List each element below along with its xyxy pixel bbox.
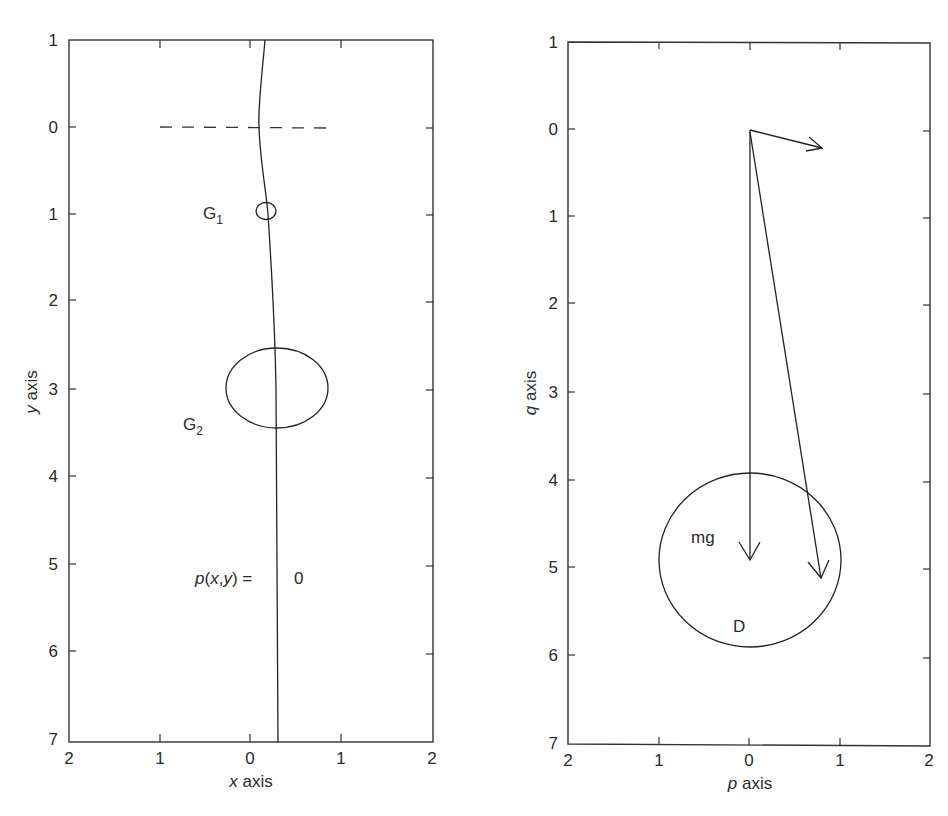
left-y-tick-label: 3 bbox=[49, 380, 58, 399]
label-mg: mg bbox=[691, 528, 715, 547]
right-x-tick-label: 2 bbox=[563, 751, 572, 770]
left-y-tick-label: 5 bbox=[49, 555, 58, 574]
right-panel: 1 0 1 2 3 4 5 6 7 2 1 0 1 2 p axis q axi… bbox=[521, 33, 934, 793]
right-x-axis-label: p axis bbox=[727, 774, 772, 793]
right-y-tick-label: 5 bbox=[549, 558, 558, 577]
right-x-tick-label: 2 bbox=[924, 751, 933, 770]
right-y-axis-label: q axis bbox=[521, 371, 540, 415]
left-x-tick-label: 2 bbox=[427, 749, 436, 768]
right-plot-frame bbox=[568, 42, 930, 746]
left-y-tick-label: 7 bbox=[49, 730, 58, 749]
right-y-tick-label: 0 bbox=[549, 120, 558, 139]
right-y-tick-label: 4 bbox=[549, 471, 558, 490]
right-y-tick-label: 1 bbox=[549, 33, 558, 52]
left-panel: 1 0 1 2 3 4 5 6 7 2 1 0 1 2 x axis y axi… bbox=[22, 31, 437, 791]
left-plot-frame bbox=[69, 40, 433, 742]
right-y-tick-label: 6 bbox=[549, 646, 558, 665]
right-y-tick-labels: 1 0 1 2 3 4 5 6 7 bbox=[549, 33, 558, 753]
equation-label-right: 0 bbox=[294, 569, 303, 588]
left-y-tick-label: 4 bbox=[49, 467, 58, 486]
left-y-tick-label: 1 bbox=[49, 205, 58, 224]
left-x-tick-label: 0 bbox=[245, 749, 254, 768]
curve-p-equals-zero bbox=[259, 40, 278, 742]
left-x-ticks bbox=[160, 40, 341, 742]
dashed-reference-line bbox=[160, 127, 330, 128]
left-y-tick-labels: 1 0 1 2 3 4 5 6 7 bbox=[49, 31, 58, 749]
left-y-tick-label: 0 bbox=[49, 118, 58, 137]
right-x-tick-labels: 2 1 0 1 2 bbox=[563, 751, 933, 770]
right-y-tick-label: 7 bbox=[549, 734, 558, 753]
vector-mg bbox=[739, 130, 760, 560]
label-d: D bbox=[733, 617, 745, 636]
left-x-tick-label: 1 bbox=[336, 749, 345, 768]
right-y-tick-label: 1 bbox=[549, 207, 558, 226]
right-y-ticks bbox=[568, 129, 930, 658]
vector-resultant bbox=[750, 132, 829, 578]
equation-label-left: p(x,y) = bbox=[194, 569, 252, 588]
region-g1 bbox=[256, 203, 276, 220]
region-g2 bbox=[226, 348, 328, 428]
label-g1: G1 bbox=[203, 204, 223, 227]
vector-small bbox=[750, 130, 822, 151]
right-x-tick-label: 0 bbox=[744, 751, 753, 770]
left-y-tick-label: 2 bbox=[49, 291, 58, 310]
right-y-tick-label: 2 bbox=[549, 294, 558, 313]
right-x-tick-label: 1 bbox=[835, 751, 844, 770]
right-y-tick-label: 3 bbox=[549, 383, 558, 402]
left-x-tick-label: 1 bbox=[155, 749, 164, 768]
left-y-tick-label: 1 bbox=[49, 31, 58, 50]
left-x-tick-label: 2 bbox=[64, 749, 73, 768]
left-x-tick-labels: 2 1 0 1 2 bbox=[64, 749, 436, 768]
left-x-axis-label: x axis bbox=[228, 772, 272, 791]
label-g2: G2 bbox=[183, 415, 203, 438]
figure: 1 0 1 2 3 4 5 6 7 2 1 0 1 2 x axis y axi… bbox=[0, 0, 948, 816]
right-x-tick-label: 1 bbox=[654, 751, 663, 770]
left-y-tick-label: 6 bbox=[49, 642, 58, 661]
left-y-axis-label: y axis bbox=[22, 370, 41, 414]
